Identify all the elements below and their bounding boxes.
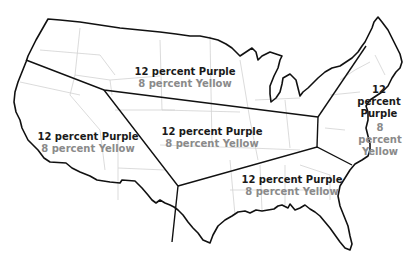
yellow-percent: 8 percent Yellow xyxy=(134,78,235,90)
purple-percent: 12 percent Purple xyxy=(161,126,262,138)
us-region-map: 12 percent Purple 8 percent Yellow 12 pe… xyxy=(0,0,415,271)
yellow-line-2: percent xyxy=(358,134,401,146)
yellow-percent: 8 percent Yellow xyxy=(161,138,262,150)
purple-line-2: percent xyxy=(357,96,400,108)
purple-line-3: Purple xyxy=(357,108,400,120)
region-label-southeast: 12 percent Purple 8 percent Yellow xyxy=(241,174,342,198)
region-label-mid-atlantic: 8 percent Yellow xyxy=(358,122,401,158)
yellow-line-3: Yellow xyxy=(358,146,401,158)
yellow-percent: 8 percent Yellow xyxy=(241,186,342,198)
purple-percent: 12 percent Purple xyxy=(241,174,342,186)
region-label-west: 12 percent Purple 8 percent Yellow xyxy=(37,131,138,155)
purple-line-1: 12 xyxy=(357,84,400,96)
region-label-north-central: 12 percent Purple 8 percent Yellow xyxy=(134,66,235,90)
yellow-line-1: 8 xyxy=(358,122,401,134)
purple-percent: 12 percent Purple xyxy=(37,131,138,143)
yellow-percent: 8 percent Yellow xyxy=(37,143,138,155)
region-label-central: 12 percent Purple 8 percent Yellow xyxy=(161,126,262,150)
purple-percent: 12 percent Purple xyxy=(134,66,235,78)
region-label-northeast: 12 percent Purple xyxy=(357,84,400,120)
